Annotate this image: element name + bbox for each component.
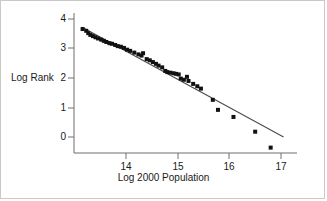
data-points <box>81 27 273 150</box>
chart-figure: 4 3 2 1 0 14 15 16 17 Log Rank Log 2000 … <box>0 0 325 199</box>
y-axis-label: Log Rank <box>11 72 54 83</box>
x-axis-ticks <box>126 153 281 159</box>
y-tick-label-1: 1 <box>55 103 66 113</box>
data-point <box>211 98 215 102</box>
x-tick-label-15: 15 <box>166 162 190 172</box>
x-axis-label: Log 2000 Population <box>1 172 326 183</box>
y-tick-label-4: 4 <box>55 14 66 24</box>
x-tick-label-14: 14 <box>114 162 138 172</box>
data-point <box>132 51 136 55</box>
y-axis-ticks <box>68 19 74 137</box>
data-point <box>269 146 273 150</box>
data-point <box>185 75 189 79</box>
x-tick-label-16: 16 <box>217 162 241 172</box>
x-tick-label-17: 17 <box>269 162 293 172</box>
data-point <box>187 79 191 83</box>
data-point <box>216 108 220 112</box>
y-tick-label-3: 3 <box>55 43 66 53</box>
data-point <box>160 65 164 69</box>
data-point <box>199 87 203 91</box>
data-point <box>231 115 235 119</box>
data-point <box>141 51 145 55</box>
data-point <box>128 49 132 53</box>
data-point <box>177 72 181 76</box>
y-tick-label-2: 2 <box>55 73 66 83</box>
data-point <box>253 130 257 134</box>
data-point <box>81 27 85 31</box>
y-tick-label-0: 0 <box>55 132 66 142</box>
data-point <box>157 64 161 68</box>
data-point <box>195 84 199 88</box>
data-point <box>191 82 195 86</box>
